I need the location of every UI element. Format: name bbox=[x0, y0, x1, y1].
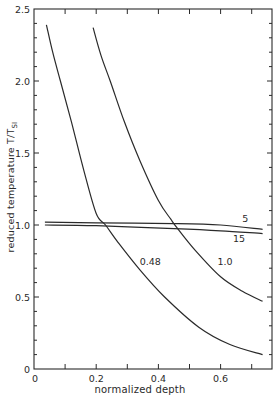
y-tick-label: 0 bbox=[24, 364, 30, 375]
y-tick-label: 0.5 bbox=[15, 292, 30, 303]
curve-label: 0.48 bbox=[140, 256, 161, 267]
series-line-1-0 bbox=[93, 28, 263, 302]
plot-area: 00.20.40.600.51.01.52.02.50.481.0515 bbox=[0, 0, 277, 399]
y-tick-label: 2.5 bbox=[15, 4, 30, 15]
x-tick-label: 0 bbox=[32, 373, 38, 384]
y-axis-label-subscript: SI bbox=[11, 122, 19, 129]
curve-label: 15 bbox=[233, 233, 245, 244]
x-tick-label: 0.2 bbox=[89, 373, 104, 384]
curve-label: 5 bbox=[242, 213, 248, 224]
y-axis-label: reduced temperature T/TSI bbox=[5, 87, 19, 287]
x-tick-label: 0.6 bbox=[213, 373, 228, 384]
y-axis-label-text: reduced temperature T/T bbox=[5, 129, 16, 253]
x-tick-label: 0.4 bbox=[151, 373, 166, 384]
x-axis-label: normalized depth bbox=[80, 384, 200, 395]
curve-label: 1.0 bbox=[217, 256, 232, 267]
chart: 00.20.40.600.51.01.52.02.50.481.0515 red… bbox=[0, 0, 277, 399]
y-tick-label: 2.0 bbox=[15, 76, 30, 87]
series-line-0-48 bbox=[46, 25, 262, 355]
